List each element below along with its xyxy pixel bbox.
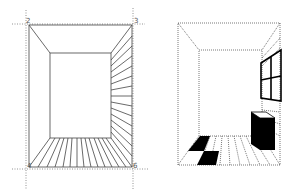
label-3: 3 bbox=[134, 17, 138, 25]
label-2: 2 bbox=[26, 17, 30, 25]
floor-lines bbox=[38, 138, 126, 167]
right-wall-lines bbox=[111, 36, 132, 156]
label-6: 6 bbox=[133, 162, 138, 170]
label-4: 4 bbox=[27, 162, 32, 170]
perspective-diagram: 2 3 4 6 bbox=[0, 0, 295, 195]
floor-tiles bbox=[188, 136, 219, 165]
left-room-construction bbox=[12, 8, 148, 190]
box-furniture bbox=[251, 112, 275, 150]
back-wall bbox=[50, 53, 111, 138]
window-icon bbox=[261, 50, 281, 101]
